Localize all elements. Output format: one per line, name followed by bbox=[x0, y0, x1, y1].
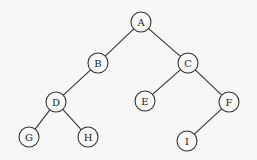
edge-c-e bbox=[152, 70, 180, 95]
edge-a-c bbox=[149, 29, 181, 57]
tree-node-e: E bbox=[135, 91, 155, 111]
tree-node-i: I bbox=[177, 131, 197, 151]
node-label: G bbox=[25, 132, 33, 143]
tree-node-c: C bbox=[178, 53, 198, 73]
edge-b-d bbox=[63, 70, 90, 95]
binary-tree-diagram: ABCDEFGHI bbox=[0, 0, 257, 160]
edge-d-h bbox=[63, 109, 82, 129]
tree-node-d: D bbox=[46, 92, 66, 112]
tree-node-b: B bbox=[88, 53, 108, 73]
tree-edges bbox=[35, 29, 222, 135]
tree-node-h: H bbox=[78, 127, 98, 147]
node-label: F bbox=[226, 97, 233, 108]
node-label: C bbox=[184, 58, 192, 69]
edge-a-b bbox=[105, 29, 134, 56]
node-label: D bbox=[52, 97, 60, 108]
node-label: A bbox=[136, 17, 145, 28]
tree-node-g: G bbox=[19, 127, 39, 147]
edge-d-g bbox=[35, 110, 50, 129]
node-label: B bbox=[94, 58, 101, 69]
tree-node-f: F bbox=[219, 92, 239, 112]
tree-node-a: A bbox=[131, 12, 151, 32]
node-label: I bbox=[185, 136, 189, 147]
node-label: H bbox=[84, 132, 93, 143]
edge-c-f bbox=[195, 70, 222, 95]
node-label: E bbox=[141, 96, 148, 107]
edge-f-i bbox=[194, 109, 221, 134]
